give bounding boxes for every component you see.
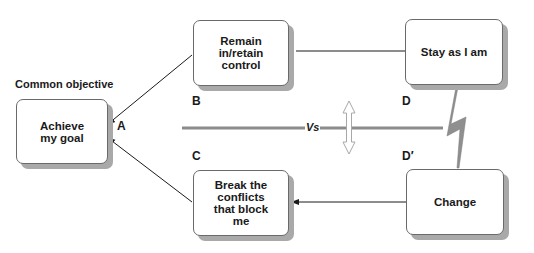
label-dprime: D′ (402, 149, 414, 163)
label-a: A (117, 119, 126, 133)
label-d: D (402, 94, 411, 108)
label-c: C (192, 149, 201, 163)
box-c-break-conflicts: Break the conflicts that block me (193, 170, 289, 236)
box-a-achieve-goal: Achieve my goal (16, 99, 108, 164)
box-b-text: Remain in/retain control (219, 35, 264, 71)
box-c-text: Break the conflicts that block me (214, 179, 268, 227)
lightning-bolt-icon (447, 87, 466, 168)
box-d-text: Stay as I am (421, 46, 487, 58)
box-b-retain-control: Remain in/retain control (193, 20, 289, 86)
common-objective-heading: Common objective (15, 78, 113, 90)
arrow-c-to-a (108, 138, 192, 202)
box-a-text: Achieve my goal (40, 120, 84, 144)
vs-label: Vs (305, 122, 320, 133)
box-dprime-text: Change (434, 196, 476, 208)
label-b: B (192, 94, 201, 108)
box-d-stay-as-i-am: Stay as I am (405, 19, 503, 85)
box-dprime-change: Change (406, 169, 504, 235)
arrow-b-to-a (108, 55, 192, 124)
